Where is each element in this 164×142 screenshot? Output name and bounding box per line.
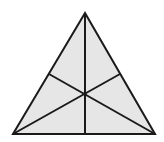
triangle-diagram [0, 0, 164, 142]
centroid-point [83, 92, 87, 96]
